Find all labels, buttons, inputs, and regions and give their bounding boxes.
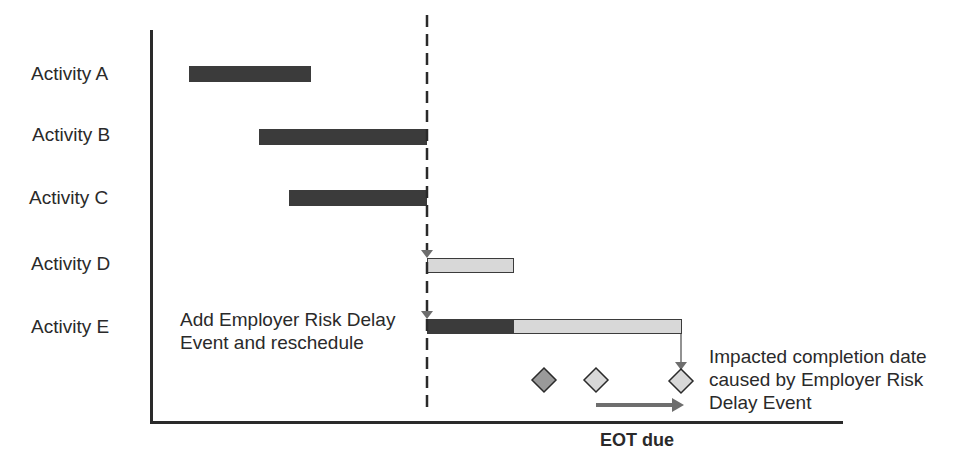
impact-line-3: Delay Event — [709, 391, 927, 414]
impact-line-1: Impacted completion date — [709, 345, 927, 368]
activity-e-arrowhead-icon — [421, 311, 433, 319]
extension-arrowhead-icon — [672, 398, 684, 412]
activity-d-arrowhead-icon — [421, 250, 433, 258]
impacted-completion-diamond-icon — [669, 369, 693, 393]
milestone-diamond-icon — [532, 368, 556, 392]
add-event-line-2: Event and reschedule — [180, 331, 395, 354]
eot-due-label: EOT due — [600, 430, 674, 451]
impact-line-2: caused by Employer Risk — [709, 368, 927, 391]
milestone-diamond-icon — [584, 368, 608, 392]
add-event-line-1: Add Employer Risk Delay — [180, 308, 395, 331]
impact-note: Impacted completion date caused by Emplo… — [709, 345, 927, 414]
add-event-note: Add Employer Risk Delay Event and resche… — [180, 308, 395, 354]
